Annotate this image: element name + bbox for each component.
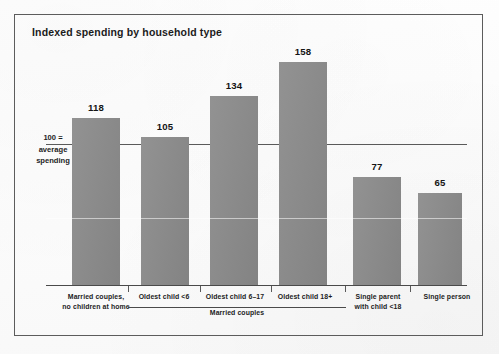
chart-frame-border	[14, 14, 483, 336]
chart-screenshot: Indexed spending by household type 118 1…	[0, 0, 499, 354]
chart-title: Indexed spending by household type	[32, 26, 222, 38]
